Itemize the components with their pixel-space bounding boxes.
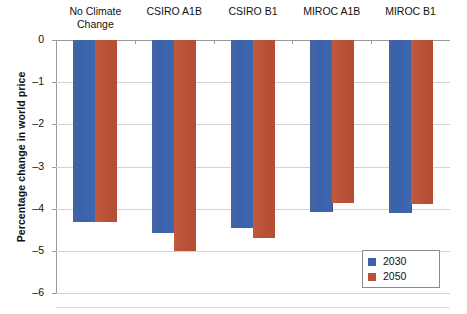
y-tick-label: –2 [0, 118, 44, 129]
category-label: No Climate Change [50, 5, 141, 31]
category-label: MIROC A1B [286, 5, 377, 18]
bottom-border-line [56, 307, 450, 308]
y-tick-mark [52, 251, 56, 252]
legend-label: 2030 [383, 256, 406, 267]
legend-item[interactable]: 2050 [368, 269, 435, 284]
y-axis-title: Percentage change in world price [10, 0, 32, 314]
y-tick-mark [52, 293, 56, 294]
legend-swatch-2050 [368, 273, 376, 281]
bar-2030-csiro-a1b[interactable] [152, 40, 175, 233]
y-tick-label: 0 [0, 34, 44, 45]
y-tick-label: –3 [0, 161, 44, 172]
gridline [56, 293, 450, 294]
category-label: MIROC B1 [365, 5, 456, 18]
legend-swatch-2030 [368, 258, 376, 266]
bar-2050-csiro-b1[interactable] [253, 40, 275, 238]
y-tick-mark [52, 40, 56, 41]
bar-2050-miroc-b1[interactable] [411, 40, 433, 204]
y-tick-mark [52, 124, 56, 125]
legend-item[interactable]: 2030 [368, 254, 435, 269]
x-tick-mark [135, 40, 136, 44]
x-tick-mark [292, 40, 293, 44]
legend: 2030 2050 [362, 250, 440, 288]
y-tick-label: –5 [0, 245, 44, 256]
bar-2050-csiro-a1b[interactable] [174, 40, 196, 251]
bar-chart: Percentage change in world price 0–1–2–3… [0, 0, 467, 314]
y-tick-label: –6 [0, 287, 44, 298]
legend-label: 2050 [383, 271, 406, 282]
x-tick-mark [371, 40, 372, 44]
y-tick-mark [52, 209, 56, 210]
bar-2030-miroc-a1b[interactable] [310, 40, 333, 212]
bar-2050-no-climate-change[interactable] [95, 40, 117, 222]
y-tick-mark [52, 167, 56, 168]
bar-2030-miroc-b1[interactable] [389, 40, 412, 213]
bar-2050-miroc-a1b[interactable] [332, 40, 354, 203]
category-label: CSIRO B1 [208, 5, 299, 18]
y-tick-label: –1 [0, 76, 44, 87]
bar-2030-csiro-b1[interactable] [231, 40, 254, 228]
bar-2030-no-climate-change[interactable] [73, 40, 96, 222]
x-tick-mark [214, 40, 215, 44]
y-tick-label: –4 [0, 203, 44, 214]
y-tick-mark [52, 82, 56, 83]
category-label: CSIRO A1B [129, 5, 220, 18]
